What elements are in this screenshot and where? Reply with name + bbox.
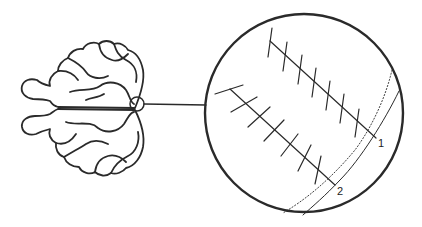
electrode-line-2 xyxy=(215,85,335,185)
magnified-view-circle xyxy=(205,14,403,212)
brain-lower-hemisphere xyxy=(22,109,144,176)
line-2-label: 2 xyxy=(337,186,343,197)
electrode-line-1 xyxy=(268,28,376,138)
solid-boundary-curve xyxy=(303,91,399,215)
line-1-label: 1 xyxy=(378,138,384,149)
diagram-figure: 1 2 xyxy=(0,0,422,227)
diagram-canvas xyxy=(0,0,422,227)
brain-upper-hemisphere xyxy=(22,41,144,108)
magnifier-connector-line xyxy=(144,104,206,105)
